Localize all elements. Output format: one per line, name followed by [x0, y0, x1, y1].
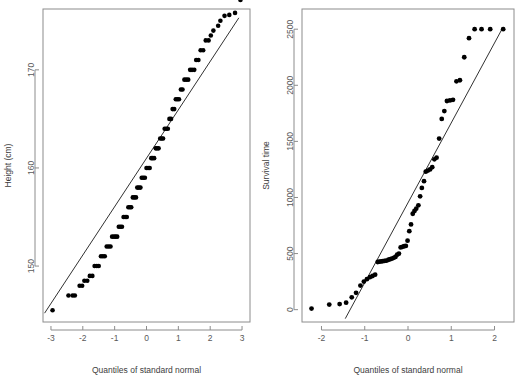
data-point: [90, 274, 95, 279]
x-axis-tick-label: -2: [317, 333, 325, 343]
data-point: [349, 295, 354, 300]
data-point: [408, 222, 413, 227]
data-point: [450, 97, 455, 102]
data-point: [415, 203, 420, 208]
y-axis-tick-label: 0: [285, 307, 295, 312]
data-point: [406, 229, 411, 234]
data-point: [461, 55, 466, 60]
data-point: [337, 302, 342, 307]
data-points: [50, 0, 242, 313]
x-axis-tick-label: 1: [176, 333, 181, 343]
data-point: [417, 194, 422, 199]
data-point: [227, 13, 232, 18]
data-point: [405, 238, 410, 243]
x-axis-tick-label: -1: [360, 333, 368, 343]
data-point: [209, 33, 214, 38]
y-axis-tick-label: 160: [26, 161, 36, 175]
qqplot-height-panel: -3-2-10123150160170Quantiles of standard…: [0, 0, 261, 384]
qqplot-survival-panel: -2-101205001000150020002500Quantiles of …: [261, 0, 521, 384]
x-axis-tick-label: -1: [111, 333, 119, 343]
data-point: [161, 136, 166, 141]
x-axis-tick-label: -2: [79, 333, 87, 343]
data-point: [403, 244, 408, 249]
data-point: [120, 225, 125, 230]
data-point: [421, 179, 426, 184]
data-point: [138, 185, 143, 190]
data-point: [326, 302, 331, 307]
data-point: [479, 27, 484, 32]
y-axis-tick-label: 500: [285, 246, 295, 260]
data-point: [172, 107, 177, 112]
data-point: [487, 27, 492, 32]
height-qqplot: -3-2-10123150160170Quantiles of standard…: [0, 0, 260, 384]
plot-frame: [302, 9, 514, 322]
data-point: [238, 0, 243, 2]
data-point: [233, 11, 238, 16]
y-axis-title: Survival time: [261, 141, 271, 190]
data-point: [419, 186, 424, 191]
data-point: [115, 234, 120, 239]
data-point: [358, 283, 363, 288]
data-point: [201, 48, 206, 53]
data-point: [441, 109, 446, 114]
y-axis-tick-label: 1500: [285, 132, 295, 151]
data-point: [457, 78, 462, 83]
y-axis-tick-label: 2000: [285, 76, 295, 95]
data-point: [147, 166, 152, 171]
y-axis-tick-label: 1000: [285, 188, 295, 207]
x-axis-tick-label: 0: [144, 333, 149, 343]
y-axis-tick-label: 170: [26, 62, 36, 76]
x-axis-tick-label: 0: [405, 333, 410, 343]
data-point: [439, 117, 444, 122]
x-axis-tick-label: 2: [208, 333, 213, 343]
data-points: [309, 27, 505, 311]
data-point: [218, 18, 223, 23]
x-axis-title: Quantiles of standard normal: [92, 365, 201, 375]
y-axis-title: Height (cm): [3, 143, 13, 187]
data-point: [309, 306, 314, 311]
data-point: [434, 155, 439, 160]
data-point: [73, 293, 78, 298]
data-point: [169, 117, 174, 122]
data-point: [124, 215, 129, 220]
data-point: [466, 36, 471, 41]
data-point: [192, 68, 197, 73]
x-axis-tick-label: 3: [240, 333, 245, 343]
data-point: [206, 38, 211, 43]
x-axis-tick-label: 2: [492, 333, 497, 343]
data-point: [152, 156, 157, 161]
y-axis-tick-label: 150: [26, 259, 36, 273]
survival-time-qqplot: -2-101205001000150020002500Quantiles of …: [261, 0, 521, 384]
data-point: [177, 97, 182, 102]
data-point: [156, 146, 161, 151]
data-point: [134, 195, 139, 200]
data-point: [180, 87, 185, 92]
data-point: [216, 23, 221, 28]
x-axis-tick-label: 1: [448, 333, 453, 343]
data-point: [102, 254, 107, 259]
data-point: [372, 272, 377, 277]
data-point: [500, 27, 505, 32]
plot-frame: [43, 9, 250, 322]
data-point: [108, 244, 113, 249]
data-point: [353, 290, 358, 295]
y-axis-tick-label: 2500: [285, 19, 295, 38]
x-axis-title: Quantiles of standard normal: [353, 365, 462, 375]
data-point: [186, 77, 191, 82]
data-point: [472, 27, 477, 32]
data-point: [80, 283, 85, 288]
x-axis-tick-label: -3: [47, 333, 55, 343]
data-point: [211, 28, 216, 33]
data-point: [436, 136, 441, 141]
data-point: [50, 308, 55, 313]
data-point: [222, 14, 227, 19]
data-point: [429, 165, 434, 170]
data-point: [343, 300, 348, 305]
data-point: [396, 251, 401, 256]
data-point: [85, 278, 90, 283]
qq-reference-line: [45, 18, 239, 313]
data-point: [66, 293, 71, 298]
data-point: [166, 126, 171, 131]
data-point: [143, 175, 148, 180]
data-point: [129, 205, 134, 210]
